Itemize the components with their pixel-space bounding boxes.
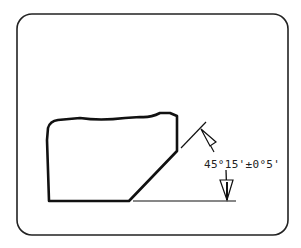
upper-dimension-arrow-icon — [201, 129, 216, 152]
chamfer-extension-line — [181, 122, 206, 148]
lower-dimension-arrow-icon — [220, 170, 233, 200]
angle-dimension-label: 45°15'±0°5' — [204, 158, 280, 171]
chamfered-block — [47, 113, 177, 201]
technical-drawing: 45°15'±0°5' — [0, 0, 301, 248]
